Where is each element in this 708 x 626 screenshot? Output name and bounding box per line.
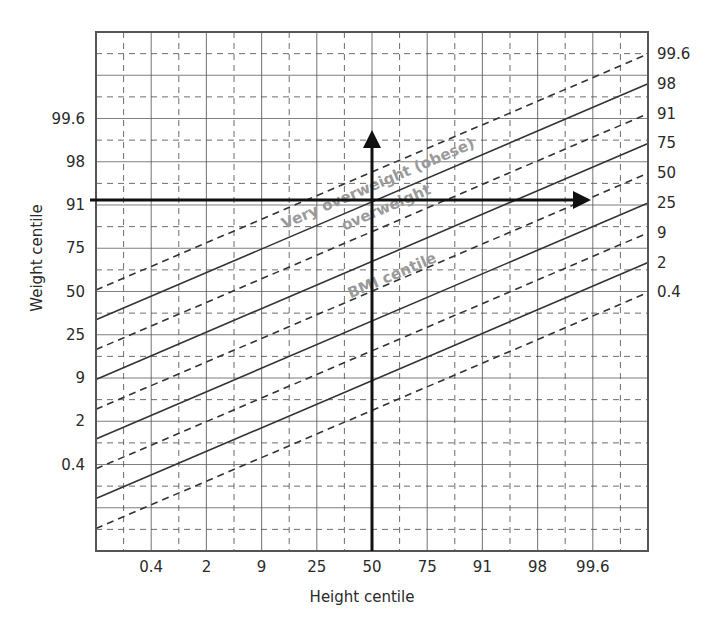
x-tick-label: 0.4 (139, 558, 163, 576)
y-tick-label: 98 (66, 153, 85, 171)
bmi-line-label: 91 (657, 105, 676, 123)
y-axis-title: Weight centile (28, 204, 46, 311)
bmi-line-labels-right: 99.69891755025920.4 (657, 45, 690, 301)
x-tick-label: 25 (307, 558, 326, 576)
y-tick-label: 0.4 (61, 456, 85, 474)
bmi-line-label: 99.6 (657, 45, 690, 63)
y-tick-label: 91 (66, 196, 85, 214)
y-tick-label: 25 (66, 326, 85, 344)
x-tick-labels: 0.429255075919899.6 (139, 558, 609, 576)
bmi-line-label: 75 (657, 134, 676, 152)
bmi-line-label: 98 (657, 75, 676, 93)
y-tick-label: 50 (66, 283, 85, 301)
arrow-up-icon (363, 130, 381, 148)
y-tick-label: 75 (66, 239, 85, 257)
x-tick-label: 98 (528, 558, 547, 576)
x-tick-label: 99.6 (576, 558, 609, 576)
bmi-chart: 99.69891755025920.4 99.69891755025920.4 … (0, 0, 708, 626)
bmi-line-label: 2 (657, 254, 667, 272)
y-tick-label: 9 (75, 369, 85, 387)
arrow-right-icon (573, 191, 591, 209)
x-tick-label: 75 (418, 558, 437, 576)
x-axis-title: Height centile (310, 588, 415, 606)
y-tick-label: 99.6 (52, 110, 85, 128)
annotation-bmi-centile: BMI centile (345, 249, 439, 303)
y-tick-label: 2 (75, 412, 85, 430)
bmi-line-label: 50 (657, 164, 676, 182)
bmi-line-label: 0.4 (657, 283, 681, 301)
x-tick-label: 2 (202, 558, 212, 576)
y-tick-labels-left: 99.69891755025920.4 (52, 110, 85, 474)
x-tick-label: 50 (362, 558, 381, 576)
x-tick-label: 9 (257, 558, 267, 576)
bmi-line-label: 9 (657, 224, 667, 242)
x-tick-label: 91 (473, 558, 492, 576)
bmi-line-label: 25 (657, 194, 676, 212)
